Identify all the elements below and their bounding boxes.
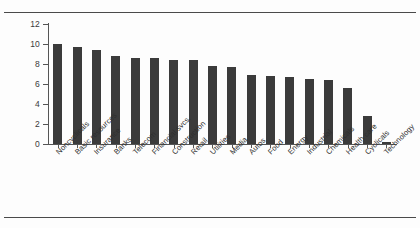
x-tick-label: Autos — [247, 136, 267, 156]
x-tick-label: Utilities — [208, 132, 232, 156]
x-tick-label: Energy — [286, 133, 310, 157]
x-axis-labels: NoncyclicalsBasic resourcesInsuranceBank… — [0, 0, 420, 228]
x-tick-label: Food — [266, 137, 285, 156]
bar-chart-figure: 024681012 NoncyclicalsBasic resourcesIns… — [0, 0, 420, 228]
x-tick-label: Technology — [382, 122, 416, 156]
